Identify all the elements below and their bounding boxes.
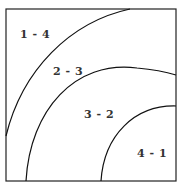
region-label-3: 3 - 2: [84, 108, 114, 121]
region-label-1: 1 - 4: [20, 28, 50, 41]
region-label-2: 2 - 3: [53, 65, 83, 78]
middle-arc: [26, 67, 176, 181]
region-label-4: 4 - 1: [137, 147, 167, 160]
